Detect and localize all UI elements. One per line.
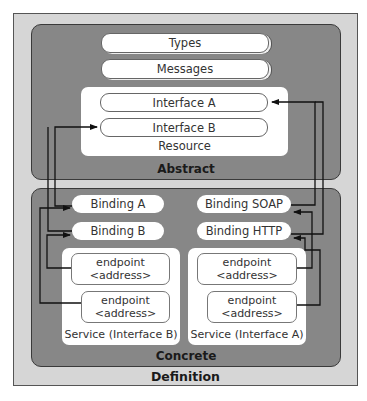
connector-arrows (0, 0, 367, 401)
